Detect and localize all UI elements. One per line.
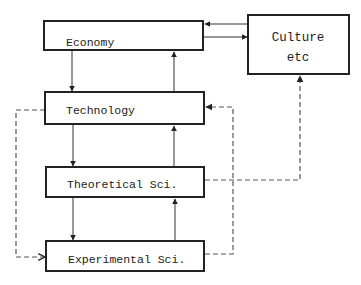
edge-technology-to-experimental-dashed bbox=[16, 110, 45, 257]
node-experimental-science-label: Experimental Sci. bbox=[68, 253, 185, 266]
edge-theoretical-to-culture-dashed bbox=[205, 76, 300, 180]
node-culture: Culture etc bbox=[248, 15, 349, 74]
node-theoretical-science-label: Theoretical Sci. bbox=[67, 178, 177, 191]
node-technology-label: Technology bbox=[66, 104, 135, 117]
node-economy: Economy bbox=[44, 21, 203, 50]
node-technology: Technology bbox=[45, 92, 204, 124]
node-experimental-science: Experimental Sci. bbox=[46, 241, 204, 271]
node-culture-label-line2: etc bbox=[287, 51, 310, 65]
node-economy-label: Economy bbox=[66, 36, 114, 49]
node-theoretical-science: Theoretical Sci. bbox=[46, 167, 204, 197]
science-economy-flow-diagram: Economy Culture etc Technology Theoretic… bbox=[0, 0, 361, 285]
node-culture-label-line1: Culture bbox=[272, 31, 325, 45]
